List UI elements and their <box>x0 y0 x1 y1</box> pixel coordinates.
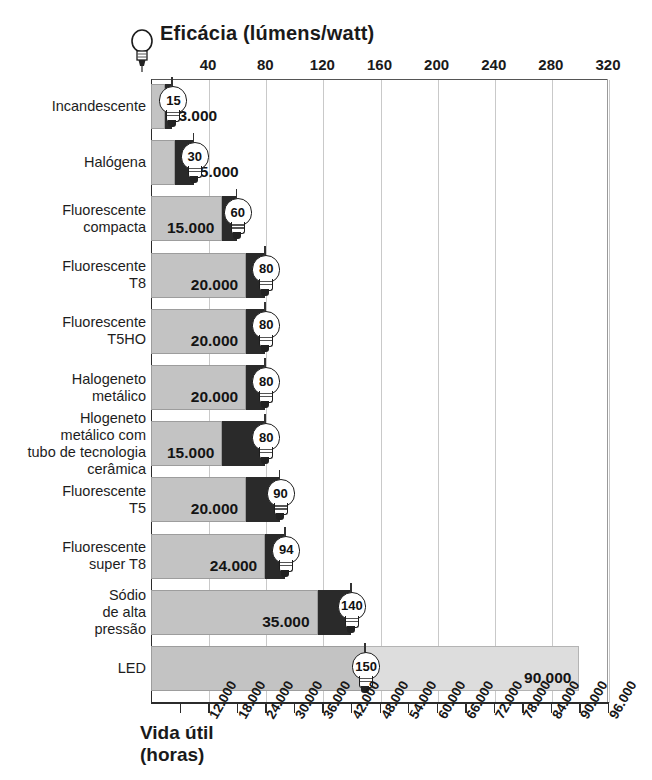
bulb-tip <box>261 289 269 296</box>
chart-row: Halogeneto metálico20.00080 <box>0 365 652 410</box>
chart-row: Fluorescente T520.00090 <box>0 477 652 522</box>
chart-row: Fluorescente T5HO20.00080 <box>0 309 652 354</box>
chart-row: LED90.000150 <box>0 646 652 691</box>
chart-row: Fluorescente T820.00080 <box>0 253 652 298</box>
bulb-tip <box>190 176 198 183</box>
efficacy-value: 15 <box>166 94 180 107</box>
efficacy-value: 94 <box>279 543 293 556</box>
category-label: LED <box>118 660 146 677</box>
life-hours-value: 20.000 <box>191 276 238 294</box>
bulb-tip <box>168 120 176 127</box>
chart-row: Halógena5.00030 <box>0 140 652 185</box>
efficacy-bulb-marker: 80 <box>248 311 282 357</box>
life-hours-value: 24.000 <box>210 557 257 575</box>
efficacy-bulb-marker: 80 <box>248 255 282 301</box>
category-label: Halogeneto metálico <box>72 371 146 405</box>
life-hours-value: 20.000 <box>191 500 238 518</box>
bulb-tip <box>261 345 269 352</box>
bulb-tip <box>276 513 284 520</box>
top-axis-tick-label: 160 <box>367 56 392 73</box>
top-axis-tick-label: 280 <box>538 56 563 73</box>
category-label: Fluorescente T5 <box>62 483 146 517</box>
bulb-tip <box>261 457 269 464</box>
chart-row: Incandescente3.00015 <box>0 84 652 129</box>
efficacy-bulb-marker: 140 <box>334 592 368 638</box>
efficacy-bulb-marker: 80 <box>248 423 282 469</box>
lightbulb-icon <box>128 26 156 72</box>
category-label: Halógena <box>84 154 146 171</box>
category-label: Fluorescente compacta <box>62 202 146 236</box>
life-hours-value: 15.000 <box>167 444 214 462</box>
top-axis-tick-label: 120 <box>310 56 335 73</box>
category-label: Fluorescente T5HO <box>62 314 146 348</box>
category-label: Sódio de alta pressão <box>94 587 146 638</box>
life-hours-bar <box>151 140 175 185</box>
efficacy-bulb-marker: 60 <box>220 198 254 244</box>
top-axis-title: Eficácia (lúmens/watt) <box>160 22 374 45</box>
top-axis-tick-label: 200 <box>424 56 449 73</box>
efficacy-value: 60 <box>230 206 244 219</box>
category-label: Fluorescente super T8 <box>62 539 146 573</box>
efficacy-bulb-marker: 15 <box>155 86 189 132</box>
efficacy-value: 90 <box>273 487 287 500</box>
category-label: Fluorescente T8 <box>62 258 146 292</box>
chart-row: Fluorescente compacta15.00060 <box>0 196 652 241</box>
top-axis-tick-label: 320 <box>595 56 620 73</box>
efficacy-value: 150 <box>355 660 377 673</box>
bulb-tip <box>347 626 355 633</box>
bottom-axis-tick <box>180 702 181 713</box>
efficacy-bulb-marker: 30 <box>177 142 211 188</box>
category-label: Hlogeneto metálico com tubo de tecnologi… <box>27 410 146 478</box>
bulb-tip <box>281 570 289 577</box>
life-hours-value: 20.000 <box>191 332 238 350</box>
efficacy-bulb-marker: 90 <box>263 479 297 525</box>
efficacy-value: 80 <box>259 431 273 444</box>
life-hours-value: 20.000 <box>191 388 238 406</box>
top-axis-tick-label: 80 <box>257 56 274 73</box>
category-label: Incandescente <box>52 98 146 115</box>
top-axis-tick-label: 240 <box>481 56 506 73</box>
life-hours-value: 15.000 <box>167 219 214 237</box>
chart-row: Sódio de alta pressão35.000140 <box>0 590 652 635</box>
top-axis-tick-label: 40 <box>200 56 217 73</box>
efficacy-value: 30 <box>188 150 202 163</box>
chart-row: Fluorescente super T824.00094 <box>0 534 652 579</box>
life-hours-value: 35.000 <box>262 613 309 631</box>
efficacy-value: 80 <box>259 375 273 388</box>
efficacy-bulb-marker: 94 <box>268 536 302 582</box>
efficacy-bulb-marker: 80 <box>248 367 282 413</box>
efficacy-value: 80 <box>259 262 273 275</box>
lighting-efficacy-lifetime-chart: Eficácia (lúmens/watt) 40801201602002402… <box>0 0 652 780</box>
efficacy-value: 140 <box>341 599 363 612</box>
bulb-tip <box>261 401 269 408</box>
bulb-tip <box>233 232 241 239</box>
efficacy-value: 80 <box>259 318 273 331</box>
chart-row: Hlogeneto metálico com tubo de tecnologi… <box>0 421 652 466</box>
